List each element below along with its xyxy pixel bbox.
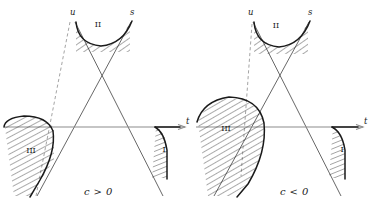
- mandelstam-figure: u s t II III I: [0, 0, 392, 214]
- axis-label-t-right: t: [364, 116, 368, 126]
- region-three-hatch-left: [0, 112, 62, 204]
- region-two-hatch-right: [246, 16, 316, 60]
- panel-left-svg: u s t II III I: [0, 0, 196, 214]
- axis-label-s-right: s: [308, 7, 313, 17]
- axis-label-t-left: t: [186, 116, 190, 126]
- region-label-three-left: III: [26, 146, 35, 155]
- axis-label-u-right: u: [248, 7, 253, 17]
- region-label-one-right: I: [340, 145, 343, 154]
- caption-c-positive: c > 0: [84, 186, 113, 197]
- region-label-two-left: II: [95, 20, 101, 29]
- region-two-hatch-left: [68, 16, 138, 58]
- region-label-one-left: I: [162, 145, 165, 154]
- caption-c-negative: c < 0: [280, 186, 309, 197]
- panel-right-svg: u s t II III I: [196, 0, 392, 214]
- axis-label-u-left: u: [70, 7, 75, 17]
- panel-c-positive: u s t II III I: [0, 0, 196, 214]
- region-three-hatch-right: [196, 92, 272, 200]
- region-label-two-right: II: [273, 21, 279, 30]
- panel-c-negative: u s t II III I: [196, 0, 392, 214]
- axis-label-s-left: s: [130, 7, 135, 17]
- region-label-three-right: III: [221, 124, 230, 133]
